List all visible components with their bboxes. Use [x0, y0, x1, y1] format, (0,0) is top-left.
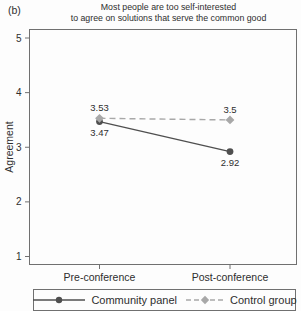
svg-text:2.92: 2.92	[221, 157, 240, 168]
svg-text:1: 1	[16, 251, 22, 262]
legend-item-community-panel: Community panel	[32, 294, 177, 306]
svg-text:3.53: 3.53	[90, 102, 109, 113]
svg-text:3.5: 3.5	[223, 104, 236, 115]
svg-text:5: 5	[16, 33, 22, 44]
svg-text:2: 2	[16, 196, 22, 207]
control-group-key-line	[185, 295, 225, 305]
svg-text:Pre-conference: Pre-conference	[64, 271, 136, 283]
svg-text:3.47: 3.47	[90, 127, 109, 138]
legend: Community panel Control group	[33, 289, 296, 311]
legend-label-community-panel: Community panel	[91, 294, 177, 306]
svg-text:4: 4	[16, 87, 22, 98]
svg-text:Post-conference: Post-conference	[192, 271, 269, 283]
legend-item-control-group: Control group	[185, 294, 297, 306]
legend-label-control-group: Control group	[230, 294, 297, 306]
svg-text:3: 3	[16, 142, 22, 153]
community-panel-key-line	[32, 295, 86, 305]
figure-panel-b: (b) Most people are too self-interested …	[0, 0, 301, 311]
line-chart: 12345Pre-conferencePost-conference3.472.…	[0, 0, 301, 311]
